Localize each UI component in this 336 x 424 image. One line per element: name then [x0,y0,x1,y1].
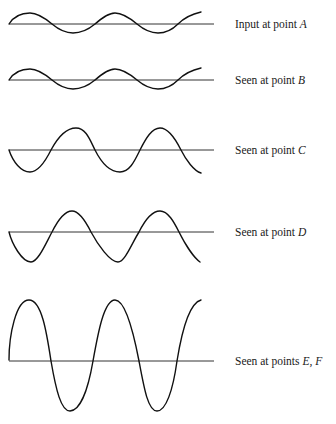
waveform-ef [9,300,201,411]
waveform-row-ef [9,300,214,411]
label-prefix: Seen at points [235,355,302,367]
waveform-b [9,68,201,89]
label-prefix: Seen at point [235,144,298,156]
label-points-e-f: Seen at points E, F [235,356,322,368]
label-point-b: Seen at point B [235,75,305,87]
label-point: A [300,18,307,30]
label-point: E, F [302,355,322,367]
label-point: C [298,144,306,156]
label-prefix: Seen at point [235,74,298,86]
label-prefix: Input at point [235,18,300,30]
label-point-c: Seen at point C [235,145,306,157]
label-point-a: Input at point A [235,19,307,31]
label-prefix: Seen at point [235,226,298,238]
waveform-row-c [9,128,214,173]
waveform-row-d [9,211,214,262]
label-point: D [298,226,306,238]
waveform-d [9,211,200,262]
label-point: B [298,74,305,86]
waveform-a [9,12,201,33]
waveform-row-b [9,68,214,89]
label-point-d: Seen at point D [235,227,306,239]
waveform-row-a [9,12,214,33]
